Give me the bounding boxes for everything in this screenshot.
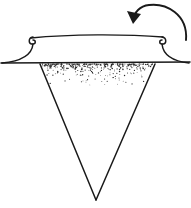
- stipple-dot: [88, 75, 89, 76]
- stipple-dot: [72, 65, 73, 66]
- stipple-dot: [57, 72, 58, 73]
- stipple-dot: [60, 73, 61, 74]
- stipple-dot: [100, 71, 101, 72]
- stipple-dot: [62, 67, 64, 69]
- stipple-dot: [92, 73, 93, 74]
- stipple-dot: [109, 69, 110, 70]
- stipple-dot: [134, 70, 135, 71]
- stipple-dot: [64, 67, 65, 68]
- stipple-dot: [82, 69, 83, 70]
- stipple-dot: [124, 75, 125, 76]
- stipple-dot: [112, 77, 113, 78]
- stipple-dot: [65, 80, 66, 81]
- stipple-dot: [103, 69, 104, 70]
- stipple-dot: [140, 67, 141, 68]
- stipple-dot: [85, 69, 86, 70]
- stipple-dot: [82, 71, 83, 72]
- stipple-dot: [115, 76, 116, 77]
- stipple-dot: [142, 66, 143, 67]
- stipple-dot: [109, 74, 110, 75]
- stipple-dot: [63, 68, 64, 69]
- stipple-dot: [92, 72, 93, 73]
- stipple-dot: [144, 69, 145, 70]
- stipple-dot: [52, 75, 53, 76]
- stipple-dot: [51, 65, 52, 66]
- stipple-dot: [126, 64, 127, 65]
- stipple-dot: [90, 69, 91, 70]
- stipple-dot: [45, 64, 46, 65]
- stipple-dot: [77, 74, 78, 75]
- stipple-dot: [70, 66, 71, 67]
- stipple-dot: [50, 66, 51, 67]
- stipple-dot: [116, 68, 117, 69]
- stipple-dot: [140, 63, 141, 64]
- stipple-dot: [80, 71, 82, 73]
- stipple-dot: [63, 74, 64, 75]
- stipple-dot: [57, 66, 58, 67]
- stipple-dot: [114, 71, 115, 72]
- stipple-dot: [112, 63, 114, 65]
- stipple-dot: [53, 70, 54, 71]
- stipple-dot: [76, 63, 77, 64]
- stipple-dot: [137, 72, 138, 73]
- stipple-dot: [142, 68, 144, 70]
- stipple-dot: [52, 64, 53, 65]
- stipple-dot: [68, 64, 69, 65]
- stipple-dot: [119, 65, 121, 67]
- stipple-dot: [75, 66, 77, 68]
- stipple-dot: [126, 66, 127, 67]
- stipple-dot: [75, 68, 76, 69]
- stipple-dot: [66, 68, 68, 70]
- stipple-dot: [92, 63, 93, 64]
- stipple-dot: [50, 83, 51, 84]
- stipple-dot: [48, 73, 49, 74]
- stipple-dot: [130, 73, 131, 74]
- stipple-dot: [57, 63, 59, 65]
- stipple-dot: [94, 68, 95, 69]
- stipple-dot: [76, 65, 77, 66]
- figure-canvas: [0, 0, 191, 208]
- stipple-dot: [49, 68, 50, 69]
- stipple-dot: [95, 79, 96, 80]
- stipple-dot: [105, 75, 106, 76]
- stipple-dot: [137, 66, 138, 67]
- stipple-dot: [116, 64, 117, 65]
- stipple-dot: [145, 68, 146, 69]
- stipple-dot: [75, 71, 76, 72]
- stipple-dot: [136, 67, 137, 68]
- stipple-dot: [87, 65, 88, 66]
- stipple-dot: [71, 66, 73, 68]
- stipple-dot: [55, 73, 56, 74]
- stipple-dot: [92, 69, 93, 70]
- stipple-dot: [140, 70, 141, 71]
- stipple-dot: [60, 66, 61, 67]
- stipple-dot: [127, 64, 128, 65]
- stipple-dot: [110, 66, 111, 67]
- stipple-dot: [113, 73, 114, 74]
- stipple-dot: [104, 78, 105, 79]
- stipple-dot: [81, 75, 82, 76]
- stipple-dot: [61, 64, 62, 65]
- background: [0, 0, 191, 208]
- stipple-dot: [93, 67, 94, 68]
- stipple-dot: [130, 66, 131, 67]
- stipple-dot: [46, 74, 47, 75]
- stipple-dot: [44, 65, 45, 66]
- stipple-dot: [100, 75, 101, 76]
- stipple-dot: [119, 80, 120, 81]
- funnel-line-drawing: [0, 0, 191, 208]
- stipple-dot: [137, 68, 138, 69]
- stipple-dot: [47, 68, 48, 69]
- stipple-dot: [91, 64, 92, 65]
- stipple-dot: [127, 72, 128, 73]
- stipple-dot: [140, 69, 141, 70]
- stipple-dot: [96, 64, 97, 65]
- stipple-dot: [101, 70, 102, 71]
- stipple-dot: [131, 73, 132, 74]
- stipple-dot: [86, 80, 87, 81]
- stipple-dot: [97, 65, 98, 66]
- stipple-dot: [69, 79, 70, 80]
- stipple-dot: [79, 66, 80, 67]
- stipple-dot: [147, 64, 148, 65]
- stipple-dot: [101, 81, 102, 82]
